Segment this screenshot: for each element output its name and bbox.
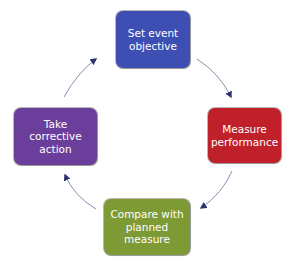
arrow-compare-to-correct [65, 175, 96, 209]
node-label: Set event objective [128, 27, 179, 52]
arrow-correct-to-set [64, 59, 96, 97]
arrow-set-to-measure [197, 59, 231, 97]
node-compare-with-planned-measure: Compare with planned measure [104, 199, 190, 255]
node-label: Take corrective action [29, 118, 81, 156]
node-set-event-objective: Set event objective [116, 11, 190, 68]
node-measure-performance: Measure performance [208, 108, 281, 163]
cycle-diagram: Set event objective Measure performance … [0, 0, 294, 268]
node-label: Measure performance [211, 123, 278, 148]
node-label: Compare with planned measure [110, 208, 183, 246]
arrow-measure-to-compare [201, 171, 232, 208]
node-take-corrective-action: Take corrective action [14, 108, 97, 165]
